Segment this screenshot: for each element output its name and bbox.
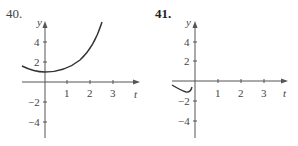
y-tick-neg2: −2 [178,95,190,107]
graph-40: 40. 1 2 3 t 4 2 −2 −4 y [0,0,149,146]
x-tick-3: 3 [110,87,116,99]
graph-40-plot: 1 2 3 t 4 2 −2 −4 y [0,0,149,146]
y-tick-neg4: −4 [178,115,190,127]
curve-41 [172,85,192,92]
graph-41: 41. 1 2 3 t 4 2 −2 −4 y [149,0,298,146]
y-tick-2: 2 [184,55,190,67]
x-tick-1: 1 [215,87,221,99]
x-tick-2: 2 [87,87,93,99]
y-tick-4: 4 [184,36,190,48]
y-axis-label: y [185,16,191,28]
y-axis-label: y [36,16,42,28]
graph-41-plot: 1 2 3 t 4 2 −2 −4 y [149,0,298,146]
y-tick-4: 4 [34,36,40,48]
x-tick-3: 3 [261,87,267,99]
y-tick-neg2: −2 [28,96,40,108]
y-tick-2: 2 [34,56,40,68]
y-tick-neg4: −4 [28,116,40,128]
x-tick-2: 2 [238,87,244,99]
x-tick-1: 1 [64,87,70,99]
x-axis-label: t [283,87,287,99]
x-axis-label: t [134,88,138,100]
